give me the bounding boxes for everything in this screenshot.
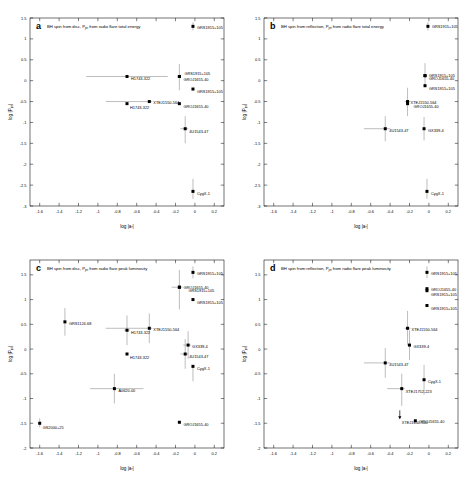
- plot-frame: [264, 18, 458, 206]
- x-tick-label: -1: [330, 451, 333, 456]
- panel-title: BH spin from disc, Pjet from radio flare…: [47, 24, 141, 30]
- y-tick-label: 1.5: [21, 16, 26, 21]
- data-marker: [191, 365, 194, 368]
- panel-b-plot: -1.6-1.4-1.2-1-0.8-0.6-0.4-0.200.21.510.…: [234, 0, 468, 242]
- panel-a: -1.6-1.4-1.2-1-0.8-0.6-0.4-0.200.21.510.…: [0, 0, 234, 242]
- y-axis-label: log |Pjet|: [8, 346, 14, 362]
- plot-frame: [30, 18, 224, 206]
- x-tick-label: 0: [428, 451, 431, 456]
- data-marker: [184, 353, 187, 356]
- point-label: GRS1124-68: [69, 321, 91, 326]
- panel-c: -1.6-1.4-1.2-1-0.8-0.6-0.4-0.200.21.510.…: [0, 242, 234, 484]
- point-label: GROJ1655-40: [183, 104, 209, 109]
- x-tick-label: 0.2: [212, 209, 217, 214]
- y-tick-label: -1.5: [254, 421, 261, 426]
- y-tick-label: 0.5: [21, 322, 26, 327]
- data-marker: [148, 100, 151, 103]
- data-marker: [425, 304, 428, 307]
- x-axis-label: log |a*|: [120, 224, 133, 230]
- y-tick-label: -1: [257, 120, 260, 125]
- panel-letter-b: b: [270, 21, 276, 31]
- x-tick-label: -1.2: [75, 209, 82, 214]
- point-label: GROJ1655-40: [183, 285, 209, 290]
- point-label: H1743-322: [131, 76, 150, 81]
- point-label: 4U1543-47: [189, 354, 208, 359]
- y-axis-label: log |Pjet|: [8, 104, 14, 120]
- data-marker: [406, 102, 409, 105]
- data-marker: [408, 344, 411, 347]
- data-marker: [178, 421, 181, 424]
- panel-b: -1.6-1.4-1.2-1-0.8-0.6-0.4-0.200.21.510.…: [234, 0, 468, 242]
- y-tick-label: 1: [258, 36, 260, 41]
- y-tick-label: 1.5: [255, 272, 260, 277]
- x-tick-label: -0.4: [387, 209, 395, 214]
- x-tick-label: -1.2: [75, 451, 82, 456]
- data-marker: [423, 378, 426, 381]
- x-tick-label: -1.6: [270, 451, 277, 456]
- data-marker: [178, 102, 181, 105]
- y-axis-label: log |Pjet|: [242, 104, 248, 120]
- data-marker: [187, 344, 190, 347]
- point-label: GX339-4: [192, 344, 208, 349]
- data-marker: [424, 84, 427, 87]
- data-marker: [426, 25, 429, 28]
- y-tick-label: 1.5: [21, 272, 26, 277]
- x-axis-label: log |a*|: [354, 466, 367, 472]
- x-tick-label: -1: [96, 451, 99, 456]
- panel-c-plot: -1.6-1.4-1.2-1-0.8-0.6-0.4-0.200.21.510.…: [0, 242, 234, 485]
- y-tick-label: 0.5: [255, 57, 260, 62]
- x-tick-label: -0.2: [172, 209, 179, 214]
- y-tick-label: -1.5: [254, 141, 261, 146]
- data-marker: [425, 271, 428, 274]
- x-tick-label: -0.4: [153, 451, 161, 456]
- x-axis-label: log |a*|: [120, 466, 133, 472]
- data-marker: [178, 286, 181, 289]
- point-label: CygX-1: [428, 379, 441, 384]
- point-label: H1743-322: [131, 330, 150, 335]
- x-tick-label: -1.4: [56, 209, 64, 214]
- point-label: A0620-00: [118, 388, 136, 393]
- data-marker: [406, 327, 409, 330]
- point-label: GRS1915+105: [197, 300, 223, 305]
- data-marker: [191, 190, 194, 193]
- y-tick-label: -0.5: [20, 99, 27, 104]
- y-tick-label: 0.5: [21, 57, 26, 62]
- x-tick-label: 0: [194, 451, 197, 456]
- data-marker: [191, 25, 194, 28]
- y-tick-label: 1: [24, 297, 26, 302]
- point-label: GROJ1655-40: [414, 104, 440, 109]
- y-tick-label: -2.5: [20, 183, 27, 188]
- x-tick-label: -1.2: [309, 451, 316, 456]
- y-tick-label: 1.5: [255, 16, 260, 21]
- x-tick-label: -1.4: [290, 451, 298, 456]
- y-tick-label: -0.5: [254, 371, 261, 376]
- point-label: GRS1915+105: [197, 25, 223, 30]
- point-label: GS2000+25: [43, 425, 64, 430]
- panel-title: BH spin from disc, Pjet from radio flare…: [47, 266, 148, 272]
- x-tick-label: -0.8: [348, 451, 355, 456]
- data-points: GRS1915+105GROJ1655-40GRS1915+105GRS1915…: [364, 266, 457, 424]
- panel-letter-d: d: [270, 263, 276, 273]
- data-marker: [191, 298, 194, 301]
- y-tick-label: -3: [257, 204, 260, 209]
- y-tick-label: -2.5: [254, 183, 261, 188]
- y-tick-label: -0.5: [20, 371, 27, 376]
- point-label: GROJ1655-40: [183, 77, 209, 82]
- y-tick-label: -1.5: [20, 421, 27, 426]
- y-tick-label: -1: [23, 120, 26, 125]
- data-marker: [400, 387, 403, 390]
- point-label: GROJ1655-40: [183, 422, 209, 427]
- point-label: GRS1915+105: [431, 292, 457, 297]
- x-tick-label: -0.2: [172, 451, 179, 456]
- point-label: GROJ1655-40: [419, 419, 445, 424]
- point-label: GRS1915+105: [184, 71, 210, 76]
- point-label: GRS1915+105: [197, 271, 223, 276]
- data-marker: [384, 361, 387, 364]
- y-tick-label: 1: [24, 36, 26, 41]
- x-tick-label: -1: [330, 209, 333, 214]
- data-marker: [126, 75, 129, 78]
- data-marker: [184, 127, 187, 130]
- data-marker: [414, 419, 417, 422]
- y-tick-label: 0: [24, 347, 27, 352]
- panel-d: -1.6-1.4-1.2-1-0.8-0.6-0.4-0.200.21.510.…: [234, 242, 468, 484]
